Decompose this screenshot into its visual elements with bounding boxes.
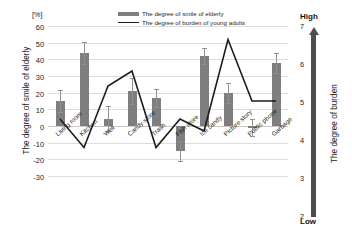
line-series xyxy=(48,26,288,176)
y-axis-tick-label: 50 xyxy=(36,39,44,48)
y-axis-tick-label: 20 xyxy=(36,89,44,98)
y-axis-right-tick-label: 6 xyxy=(300,60,304,69)
y-axis-tick-label: -30 xyxy=(33,173,44,182)
y-axis-tick-label: 0 xyxy=(40,123,44,132)
arrow-up-icon xyxy=(309,27,319,35)
legend-bar-swatch-icon xyxy=(118,12,139,16)
y-axis-right-tick-label: 5 xyxy=(300,98,304,107)
y-axis-right-low-label: Low xyxy=(300,217,316,226)
plot-area: 6050403020100-10-20-30 xyxy=(48,26,288,176)
y-axis-right-tick-label: 3 xyxy=(300,174,304,183)
y-axis-right-title: The degree of burden xyxy=(330,84,339,163)
y-axis-tick-label: 40 xyxy=(36,56,44,65)
legend-item-bar: The degree of smile of elderly xyxy=(118,9,298,18)
gridline: -30 xyxy=(48,176,288,177)
y-axis-right-tick-label: 4 xyxy=(300,136,304,145)
y-axis-right: High 765432 Low The degree of burden xyxy=(300,26,352,216)
y-axis-tick-label: 60 xyxy=(36,23,44,32)
legend-line-swatch-icon xyxy=(118,22,139,23)
y-axis-tick-label: 30 xyxy=(36,73,44,82)
y-axis-tick-label: 10 xyxy=(36,106,44,115)
line-path xyxy=(60,40,276,148)
legend-label-bar: The degree of smile of elderly xyxy=(142,9,224,18)
y-axis-left-title: The degree of smile of elderly xyxy=(22,31,31,171)
y-axis-tick-label: -10 xyxy=(33,139,44,148)
y-axis-right-tick-label: 7 xyxy=(300,22,304,31)
chart-container: The degree of smile of elderly The degre… xyxy=(0,0,352,237)
y-axis-tick-label: -20 xyxy=(33,156,44,165)
chart-legend: The degree of smile of elderly The degre… xyxy=(118,9,298,27)
y-axis-right-high-label: High xyxy=(300,12,318,21)
arrow-shaft xyxy=(311,35,316,217)
y-axis-unit-label: [%] xyxy=(32,10,42,19)
